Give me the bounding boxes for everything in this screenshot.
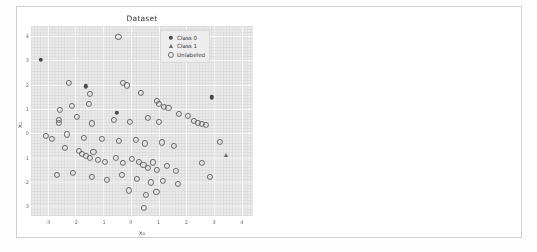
panel-dataset: Dataset -3-2-10123443210-1-2-3 x₀ x₁ Cla… (0, 0, 272, 252)
open-circle-marker (143, 192, 149, 198)
gridline-vertical (103, 26, 104, 216)
x-tick-label: -2 (73, 219, 78, 225)
legend-marker (164, 42, 177, 51)
open-circle-marker (199, 160, 205, 166)
legend-label: Class 0 (177, 34, 197, 43)
legend-entry: Unlabeled (164, 51, 205, 60)
open-circle-marker (133, 137, 139, 143)
open-circle-marker (176, 111, 182, 117)
jpeg-noise-overlay (31, 26, 253, 216)
filled-circle-marker (38, 57, 42, 61)
x-axis-label-left: x₀ (31, 229, 253, 237)
open-circle-marker (175, 181, 181, 187)
open-circle-marker (185, 113, 191, 119)
gridline-horizontal (31, 109, 253, 110)
filled-circle-marker (168, 36, 172, 40)
x-tick-label: 3 (213, 219, 216, 225)
open-circle-marker (148, 179, 154, 185)
panel-linear-svm: Linear SVM -3-2-10123443210-1-2-3 x₀ x₁ … (272, 0, 537, 252)
open-circle-marker (89, 120, 95, 126)
legend-entry: Class 0 (164, 34, 205, 43)
open-circle-marker (171, 143, 177, 149)
legend-left: Class 0Class 1Unlabeled (160, 30, 210, 63)
gridline-horizontal (31, 36, 253, 37)
open-circle-marker (142, 140, 148, 146)
y-tick-label: 4 (19, 33, 29, 39)
x-tick-label: 2 (185, 219, 188, 225)
open-circle-marker (49, 136, 55, 142)
y-tick-label: -1 (19, 155, 29, 161)
y-tick-label: 0 (19, 130, 29, 136)
x-tick-label: -1 (101, 219, 106, 225)
open-circle-marker (57, 107, 63, 113)
open-circle-marker (124, 82, 130, 88)
open-circle-marker (101, 159, 107, 165)
legend-label: Class 1 (177, 42, 197, 51)
open-circle-marker (64, 131, 70, 137)
open-circle-marker (81, 135, 87, 141)
open-circle-marker (217, 139, 223, 145)
open-circle-marker (116, 137, 122, 143)
open-circle-marker (86, 101, 92, 107)
x-tick-label: 0 (129, 219, 132, 225)
open-circle-marker (87, 155, 93, 161)
legend-marker (164, 34, 177, 43)
gridline-vertical (75, 26, 76, 216)
open-circle-marker (88, 173, 94, 179)
open-circle-marker (128, 156, 134, 162)
open-circle-marker (111, 117, 117, 123)
legend-marker (164, 51, 177, 60)
triangle-up-marker (224, 153, 228, 157)
x-tick-label: -3 (45, 219, 50, 225)
open-circle-marker (145, 115, 151, 121)
open-circle-marker (165, 105, 171, 111)
open-circle-marker (203, 122, 209, 128)
y-tick-label: 1 (19, 106, 29, 112)
gridline-horizontal (31, 158, 253, 159)
plot-area-left (31, 26, 253, 216)
legend-label: Unlabeled (177, 51, 205, 60)
y-axis-label-left: x₁ (16, 122, 24, 128)
gridline-horizontal (31, 85, 253, 86)
y-tick-label: -2 (19, 179, 29, 185)
filled-circle-marker (84, 84, 88, 88)
open-circle-marker (167, 52, 173, 58)
open-circle-marker (141, 205, 147, 211)
x-tick-label: 1 (157, 219, 160, 225)
triangle-up-marker (169, 44, 173, 48)
open-circle-marker (150, 159, 156, 165)
gridline-vertical (48, 26, 49, 216)
open-circle-marker (113, 155, 119, 161)
legend-entry: Class 1 (164, 42, 205, 51)
open-circle-marker (90, 149, 96, 155)
y-tick-label: 2 (19, 82, 29, 88)
chart-title-left: Dataset (31, 14, 253, 23)
open-circle-marker (74, 114, 80, 120)
open-circle-marker (159, 139, 165, 145)
open-circle-marker (87, 91, 93, 97)
open-circle-marker (138, 90, 144, 96)
open-circle-marker (95, 157, 101, 163)
open-circle-marker (119, 172, 125, 178)
gridline-vertical (214, 26, 215, 216)
open-circle-marker (156, 118, 162, 124)
open-circle-marker (56, 120, 62, 126)
y-tick-label: 3 (19, 57, 29, 63)
open-circle-marker (164, 163, 170, 169)
open-circle-marker (145, 165, 151, 171)
open-circle-marker (62, 145, 68, 151)
filled-circle-marker (114, 110, 118, 114)
open-circle-marker (53, 172, 59, 178)
open-circle-marker (207, 173, 213, 179)
open-circle-marker (173, 168, 179, 174)
x-tick-label: 4 (240, 219, 243, 225)
gridline-vertical (242, 26, 243, 216)
y-tick-label: -3 (19, 203, 29, 209)
gridline-horizontal (31, 182, 253, 183)
open-circle-marker (120, 160, 126, 166)
open-circle-marker (115, 34, 121, 40)
matplotlib-figure: Dataset -3-2-10123443210-1-2-3 x₀ x₁ Cla… (0, 0, 537, 252)
gridline-horizontal (31, 60, 253, 61)
